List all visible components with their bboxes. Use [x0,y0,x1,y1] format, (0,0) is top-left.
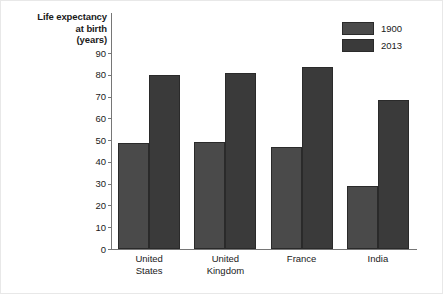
x-axis-category-label-line: United [111,253,187,265]
legend-label-1900: 1900 [381,23,402,35]
bar-1900 [194,142,225,249]
y-tick-label: 40 [95,155,106,168]
plot-area: 9080706050403020100 [111,53,416,249]
legend-swatch-1900 [342,22,374,35]
y-tick-label: 10 [95,221,106,234]
x-axis-category-label: India [340,253,416,277]
y-tick-label: 80 [95,68,106,81]
bar-2013 [378,100,409,249]
y-axis-title-line-3: (years) [9,34,107,46]
y-tick-label: 20 [95,199,106,212]
x-axis-category-label-line: States [111,265,187,277]
y-axis-title-line-2: at birth [9,23,107,35]
y-tick-label: 0 [101,243,106,256]
y-tick-label: 70 [95,90,106,103]
x-axis-category-labels: UnitedStatesUnitedKingdomFranceIndia [111,253,416,277]
legend-item-2013: 2013 [342,39,402,52]
bar-1900 [271,147,302,249]
x-axis-category-label: UnitedStates [111,253,187,277]
bar-group [187,53,263,249]
x-axis-category-label: France [264,253,340,277]
bar-group [340,53,416,249]
y-tick-label: 50 [95,134,106,147]
y-axis-title-line-1: Life expectancy [9,11,107,23]
y-tick-mark [108,249,111,250]
bar-chart-figure: Life expectancy at birth (years) 1900 20… [0,0,443,294]
bar-1900 [118,143,149,249]
bar-2013 [149,75,180,249]
x-axis-category-label-line: United [187,253,263,265]
bar-group [264,53,340,249]
x-axis-category-label-line: India [340,253,416,265]
chart-legend: 1900 2013 [342,22,402,56]
bar-1900 [347,186,378,249]
bar-2013 [225,73,256,249]
bar-groups [111,53,416,249]
y-tick-label: 30 [95,177,106,190]
x-axis-category-label-line: France [264,253,340,265]
legend-item-1900: 1900 [342,22,402,35]
bar-2013 [302,67,333,249]
x-axis-category-label: UnitedKingdom [187,253,263,277]
legend-label-2013: 2013 [381,40,402,52]
x-axis-category-label-line: Kingdom [187,265,263,277]
bar-group [111,53,187,249]
y-tick-label: 90 [95,47,106,60]
x-axis-line [111,249,417,250]
y-tick-label: 60 [95,112,106,125]
y-axis-title: Life expectancy at birth (years) [9,11,107,46]
legend-swatch-2013 [342,39,374,52]
